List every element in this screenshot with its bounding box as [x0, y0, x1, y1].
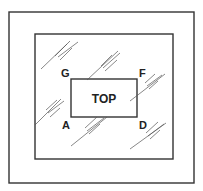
corner-label-d: D	[139, 119, 147, 131]
corner-label-g: G	[61, 67, 70, 79]
top-view-diagram: TOP G F A D	[0, 0, 203, 191]
corner-label-f: F	[139, 67, 146, 79]
top-label: TOP	[92, 92, 116, 106]
corner-label-a: A	[62, 119, 70, 131]
